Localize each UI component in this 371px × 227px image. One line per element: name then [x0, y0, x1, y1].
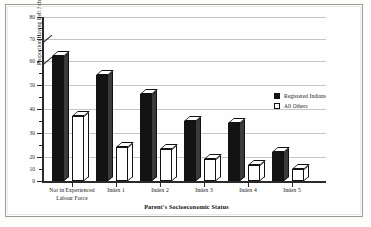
bar-front — [292, 169, 304, 181]
legend-item-all-others: All Others — [274, 103, 326, 109]
y-tick-label-40: 40 — [29, 106, 35, 112]
bar-front — [160, 149, 172, 181]
figure-border: 80 70 60 50 40 30 20 10 0 — [5, 4, 363, 217]
bar-all-others-4 — [248, 165, 260, 181]
bar-front — [72, 116, 84, 181]
legend-label-registered-indians: Registered Indians — [284, 93, 326, 99]
y-axis-title: Proportion Having Left School — [36, 0, 42, 65]
y-tick-minor-15 — [39, 169, 43, 170]
gridline-60 — [44, 61, 326, 62]
bar-front — [228, 123, 240, 181]
y-tick-minor-35 — [39, 121, 43, 122]
y-tick-30 — [37, 133, 43, 134]
y-tick-label-70: 70 — [29, 36, 35, 42]
x-axis-title: Parent's Socioeconomic Status — [1, 203, 371, 210]
bar-side — [84, 112, 89, 181]
bar-side — [216, 155, 221, 181]
y-tick-20 — [37, 157, 43, 158]
y-tick-label-80: 80 — [29, 14, 35, 20]
y-tick-label-30: 30 — [29, 130, 35, 136]
legend: Registered Indians All Others — [274, 93, 326, 113]
bar-side — [152, 90, 157, 181]
bar-front — [184, 121, 196, 181]
legend-swatch-registered-indians — [274, 93, 280, 99]
gridline-80 — [44, 17, 326, 18]
bar-front — [248, 165, 260, 181]
bar-side — [240, 119, 245, 181]
y-tick-label-0: 0 — [32, 178, 35, 184]
bar-front — [116, 147, 128, 181]
y-tick-minor-55 — [39, 73, 43, 74]
y-tick-50 — [37, 85, 43, 86]
bar-registered-indians-5 — [272, 152, 284, 181]
legend-label-all-others: All Others — [284, 103, 308, 109]
bar-side — [128, 143, 133, 181]
x-category-label-0-line2: Labour Force — [34, 195, 110, 203]
bar-side — [284, 148, 289, 181]
legend-item-registered-indians: Registered Indians — [274, 93, 326, 99]
gridline-70 — [44, 39, 326, 40]
bar-all-others-5 — [292, 169, 304, 181]
bar-all-others-3 — [204, 159, 216, 181]
bar-registered-indians-4 — [228, 123, 240, 181]
y-tick-label-60: 60 — [29, 58, 35, 64]
bar-front — [52, 56, 64, 181]
bar-front — [204, 159, 216, 181]
bar-all-others-2 — [160, 149, 172, 181]
y-tick-label-50: 50 — [29, 82, 35, 88]
y-tick-minor-25 — [39, 145, 43, 146]
gridline-50 — [44, 85, 326, 86]
bar-side — [172, 145, 177, 181]
bar-all-others-0 — [72, 116, 84, 181]
bar-side — [196, 117, 201, 181]
bar-registered-indians-2 — [140, 94, 152, 181]
chart-figure: 80 70 60 50 40 30 20 10 0 — [0, 0, 371, 227]
y-tick-label-10: 10 — [29, 166, 35, 172]
bar-side — [64, 52, 69, 181]
bar-front — [96, 75, 108, 181]
y-tick-label-20: 20 — [29, 154, 35, 160]
y-tick-minor-45 — [39, 97, 43, 98]
bar-registered-indians-3 — [184, 121, 196, 181]
bar-registered-indians-1 — [96, 75, 108, 181]
bar-registered-indians-0 — [52, 56, 64, 181]
bar-front — [140, 94, 152, 181]
y-tick-40 — [37, 109, 43, 110]
x-category-label-5: Index 5 — [266, 187, 318, 195]
bar-side — [108, 71, 113, 181]
bar-front — [272, 152, 284, 181]
bar-all-others-1 — [116, 147, 128, 181]
legend-swatch-all-others — [274, 103, 280, 109]
